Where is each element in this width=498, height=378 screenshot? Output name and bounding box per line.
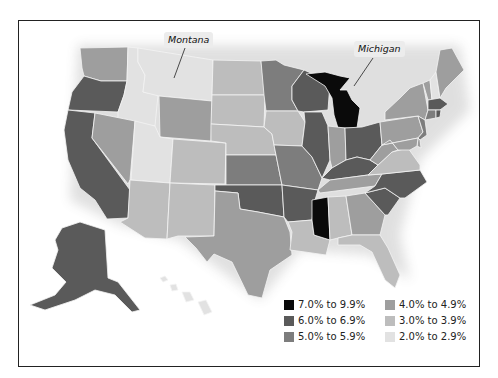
legend-label: 3.0% to 3.9% <box>399 315 466 326</box>
legend-item: 7.0% to 9.9% <box>284 299 365 310</box>
state-ks <box>226 155 282 185</box>
state-wy <box>159 96 212 141</box>
state-ri <box>436 110 441 118</box>
legend-item: 5.0% to 5.9% <box>284 331 365 342</box>
state-hi <box>160 276 212 315</box>
state-ak <box>30 222 140 312</box>
legend-item: 4.0% to 4.9% <box>385 299 466 310</box>
state-co <box>170 139 226 184</box>
legend-swatch <box>385 316 395 326</box>
legend-item: 3.0% to 3.9% <box>385 315 466 326</box>
legend-swatch <box>284 316 294 326</box>
state-wa <box>80 47 128 81</box>
state-nd <box>212 60 265 95</box>
state-sd <box>211 95 265 127</box>
legend-label: 7.0% to 9.9% <box>298 299 365 310</box>
state-ms <box>312 197 330 240</box>
legend-swatch <box>385 300 395 310</box>
legend-label: 2.0% to 2.9% <box>399 331 466 342</box>
state-nm <box>167 183 215 239</box>
callout-michigan: Michigan <box>354 41 405 57</box>
legend-item: 6.0% to 6.9% <box>284 315 365 326</box>
callout-montana: Montana <box>164 32 213 48</box>
legend-swatch <box>385 332 395 342</box>
legend-item: 2.0% to 2.9% <box>385 331 466 342</box>
legend-label: 6.0% to 6.9% <box>298 315 365 326</box>
legend-swatch <box>284 300 294 310</box>
legend-label: 5.0% to 5.9% <box>298 331 365 342</box>
legend-label: 4.0% to 4.9% <box>399 299 466 310</box>
legend-swatch <box>284 332 294 342</box>
